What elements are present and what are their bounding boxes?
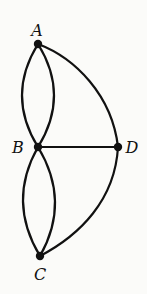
node-label-b: B [11,138,24,157]
node-b [34,143,42,151]
edge-b-c [23,147,40,256]
edge-a-b [38,44,54,147]
graph-nodes [34,40,122,260]
edge-a-d [38,44,118,147]
edge-c-d [40,147,118,256]
node-a [34,40,42,48]
graph-diagram: ABCD [0,0,147,294]
node-label-d: D [125,138,139,157]
node-label-a: A [29,21,43,40]
node-c [36,252,44,260]
node-d [114,143,122,151]
node-label-c: C [34,265,46,284]
edge-b-c [38,147,55,256]
edge-a-b [22,44,38,147]
